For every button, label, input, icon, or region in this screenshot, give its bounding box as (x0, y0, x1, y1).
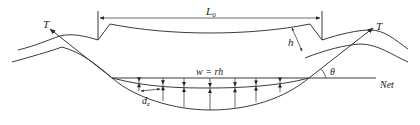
height-dimension-line (292, 28, 302, 51)
left-bank-upper (18, 35, 98, 50)
load-arrow-up-icon (182, 88, 186, 92)
net-loading-diagram: L0 h T T Net θ w = rh dz (0, 0, 420, 125)
left-bank-lower (12, 47, 112, 78)
displacement-label: dz (142, 95, 150, 108)
load-arrow-down-icon (254, 80, 258, 84)
load-arrow-up-icon (233, 88, 237, 92)
net-label: Net (379, 79, 394, 90)
tension-left-label: T (43, 18, 50, 30)
load-arrows (137, 77, 282, 110)
frame-left-slope (98, 24, 110, 40)
load-arrow-up-icon (254, 86, 258, 90)
angle-arc (321, 69, 326, 78)
load-label: w = rh (196, 66, 223, 77)
tension-right-label: T (376, 20, 383, 32)
angle-label: θ (330, 66, 335, 77)
load-arrow-down-icon (233, 82, 237, 86)
right-bank-upper (322, 30, 408, 49)
span-label: L0 (205, 5, 216, 19)
load-arrow-up-icon (208, 89, 212, 93)
displacement-arrow (141, 89, 160, 91)
frame-curved-top (110, 24, 310, 33)
frame-right-slope (310, 24, 322, 40)
height-label: h (288, 36, 294, 48)
load-arrow-down-icon (182, 82, 186, 86)
right-bank-lower (305, 44, 408, 62)
load-arrow-down-icon (161, 80, 165, 84)
load-arrow-down-icon (278, 77, 282, 81)
load-arrow-down-icon (137, 77, 141, 81)
load-arrow-down-icon (208, 83, 212, 87)
